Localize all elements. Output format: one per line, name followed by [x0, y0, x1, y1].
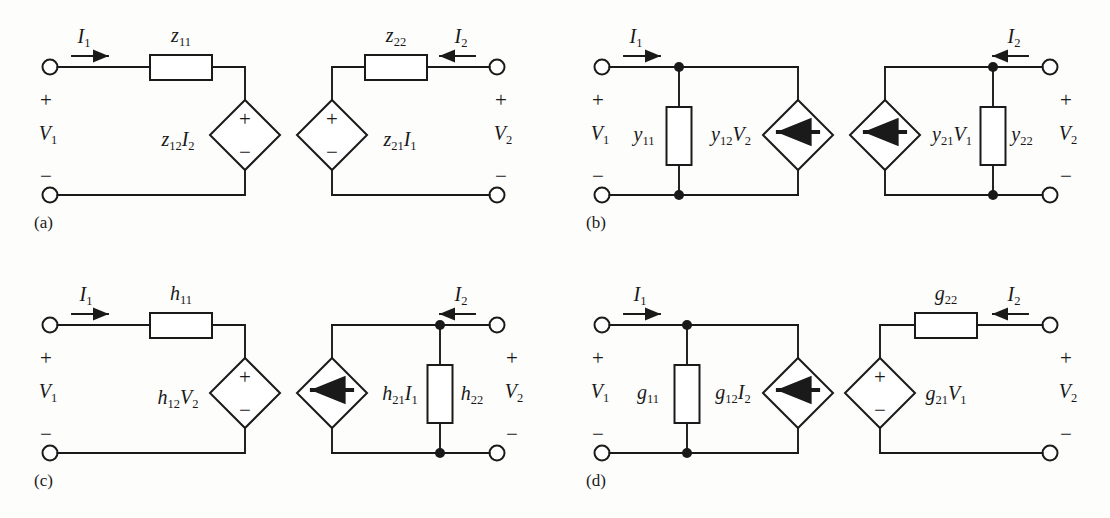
node-dot-d-left-bottom: [682, 448, 692, 458]
label-c-V1: V1: [39, 381, 57, 401]
label-d-I2: I2: [1008, 284, 1021, 304]
label-d-right-minus: −: [1060, 424, 1072, 445]
label-a-V1: V1: [39, 123, 57, 143]
label-c-V2: V2: [505, 381, 523, 401]
label-b-right-minus: −: [1060, 166, 1072, 187]
label-d-V2: V2: [1059, 381, 1077, 401]
wire-a-res-to-src: [212, 67, 245, 100]
source-d-g12I2: [763, 358, 833, 428]
panel-tag-c: (c): [34, 472, 53, 489]
resistor-d-g22: [915, 313, 977, 338]
label-c-I2: I2: [455, 284, 468, 304]
two-port-network-figure: I1 z11 + V1 − z12I2 + − z22 I2 + − z21I1…: [0, 0, 1110, 518]
label-d-g11: g11: [637, 382, 659, 402]
label-c-src-minus: −: [239, 400, 251, 421]
terminal-c-right-bottom: [490, 446, 505, 461]
label-b-V2: V2: [1059, 123, 1077, 143]
label-a-z22: z22: [386, 25, 406, 45]
label-c-h22: h22: [461, 383, 484, 403]
resistor-b-y22: [981, 107, 1006, 165]
label-d-I1: I1: [634, 284, 647, 304]
label-c-h12V2: h12V2: [158, 387, 199, 407]
terminal-a-right-bottom: [490, 188, 505, 203]
source-b-y12V2: [763, 100, 833, 170]
label-b-y22: y22: [1011, 124, 1032, 144]
label-b-I2: I2: [1008, 26, 1021, 46]
terminal-b-right-bottom: [1043, 188, 1058, 203]
terminal-c-left-top: [43, 318, 58, 333]
label-a-I2: I2: [455, 26, 468, 46]
label-a-left-plus: +: [40, 90, 52, 111]
circuit-drawing: [0, 0, 1110, 518]
label-a-z12I2: z12I2: [161, 129, 194, 149]
terminal-a-left-top: [43, 60, 58, 75]
label-a-left-minus: −: [40, 166, 52, 187]
node-dot-b-left-bottom: [674, 190, 684, 200]
label-d-left-minus: −: [592, 424, 604, 445]
label-d-left-plus: +: [592, 348, 604, 369]
label-c-src-plus: +: [239, 367, 251, 388]
wire-c-bottom-left: [58, 428, 246, 453]
resistor-a-z11: [150, 55, 212, 80]
terminal-c-left-bottom: [43, 446, 58, 461]
node-dot-c-right-bottom: [435, 448, 445, 458]
resistor-c-h11: [150, 313, 212, 338]
terminal-a-left-bottom: [43, 188, 58, 203]
terminal-d-right-bottom: [1043, 446, 1058, 461]
terminal-b-left-top: [595, 60, 610, 75]
label-d-g22: g22: [935, 283, 958, 303]
resistor-b-y11: [667, 107, 692, 165]
wire-a-bottom-left: [58, 170, 246, 195]
node-dot-d-left-top: [682, 320, 692, 330]
terminal-d-left-top: [595, 318, 610, 333]
resistor-c-h22: [428, 365, 453, 423]
source-b-y21V1: [850, 100, 920, 170]
label-b-left-plus: +: [592, 90, 604, 111]
panel-tag-b: (b): [586, 214, 606, 231]
wire-a-res22-to-src: [332, 67, 365, 100]
resistor-d-g11: [675, 365, 700, 423]
label-c-left-plus: +: [40, 348, 52, 369]
resistor-a-z22: [365, 55, 427, 80]
source-c-h21I1: [297, 358, 367, 428]
label-c-right-minus: −: [506, 424, 518, 445]
terminal-d-right-top: [1043, 318, 1058, 333]
label-a-src2-minus: −: [326, 142, 338, 163]
label-d-src-minus: −: [874, 400, 886, 421]
node-dot-b-left-top: [674, 62, 684, 72]
label-b-left-minus: −: [592, 166, 604, 187]
terminal-d-left-bottom: [595, 446, 610, 461]
label-d-right-plus: +: [1060, 348, 1072, 369]
label-a-src1-minus: −: [239, 142, 251, 163]
label-a-src2-plus: +: [326, 109, 338, 130]
label-d-g12I2: g12I2: [715, 382, 750, 402]
label-b-I1: I1: [630, 26, 643, 46]
label-c-left-minus: −: [40, 424, 52, 445]
wire-d-bottom-right: [880, 428, 1043, 453]
label-d-V1: V1: [591, 381, 609, 401]
wire-c-res-to-src: [212, 325, 245, 358]
terminal-b-right-top: [1043, 60, 1058, 75]
label-c-h21I1: h21I1: [382, 383, 417, 403]
label-a-I1: I1: [78, 26, 91, 46]
label-c-h11: h11: [170, 283, 192, 303]
label-a-right-minus: −: [495, 166, 507, 187]
label-b-y12V2: y12V2: [711, 124, 751, 144]
label-d-g21V1: g21V1: [926, 383, 967, 403]
label-c-I1: I1: [80, 284, 93, 304]
label-a-V2: V2: [494, 123, 512, 143]
terminal-a-right-top: [490, 60, 505, 75]
terminal-b-left-bottom: [595, 188, 610, 203]
node-dot-c-right-top: [435, 320, 445, 330]
label-a-src1-plus: +: [239, 109, 251, 130]
label-b-y11: y11: [634, 124, 655, 144]
label-b-right-plus: +: [1060, 90, 1072, 111]
node-dot-b-right-top: [988, 62, 998, 72]
panel-tag-d: (d): [586, 472, 606, 489]
node-dot-b-right-bottom: [988, 190, 998, 200]
label-a-right-plus: +: [495, 90, 507, 111]
label-b-V1: V1: [591, 123, 609, 143]
label-b-y21V1: y21V1: [932, 124, 972, 144]
wire-d-res-to-src: [880, 325, 915, 358]
panel-tag-a: (a): [34, 214, 53, 231]
